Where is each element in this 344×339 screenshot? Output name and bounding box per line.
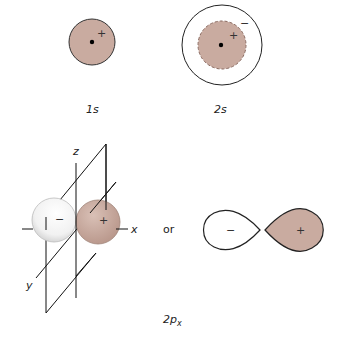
axis-label-y: y	[25, 279, 33, 292]
nucleus-dot	[219, 43, 223, 47]
axis-label-z: z	[72, 145, 79, 158]
nucleus-dot	[90, 40, 94, 44]
negative-lobe-sign: −	[55, 213, 64, 226]
orbital-2px-simplified: − +	[204, 209, 324, 252]
orbital-1s: +	[69, 19, 115, 65]
simplified-positive-sign: +	[296, 224, 305, 237]
1s-sign: +	[97, 27, 106, 40]
or-connector: or	[163, 223, 175, 236]
simplified-negative-sign: −	[226, 224, 235, 237]
label-2s: 2s	[214, 103, 227, 116]
label-2px: 2px	[163, 313, 182, 328]
2s-outer-sign: −	[240, 17, 249, 30]
orbital-2px-3d: z x y − +	[22, 144, 138, 313]
negative-lobe	[32, 198, 76, 242]
orbital-2s: + −	[182, 5, 262, 85]
simplified-positive-lobe	[265, 209, 323, 252]
label-2px-subscript: x	[176, 319, 182, 328]
atomic-orbitals-diagram: + 1s + − 2s z	[0, 0, 344, 339]
axis-label-x: x	[130, 223, 138, 236]
positive-lobe-sign: +	[99, 214, 108, 227]
2s-inner-sign: +	[229, 29, 238, 42]
label-1s: 1s	[86, 103, 99, 116]
label-2px-main: 2p	[163, 313, 177, 326]
positive-lobe	[76, 200, 120, 244]
